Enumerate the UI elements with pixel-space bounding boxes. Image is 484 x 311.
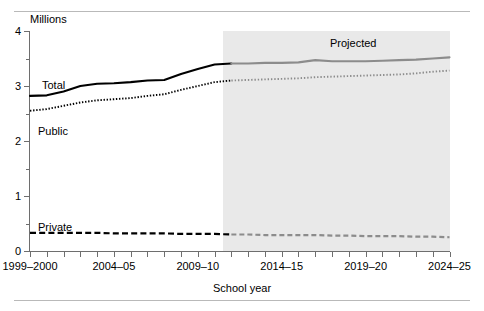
chart-plot-lines xyxy=(0,0,484,311)
x-axis-title: School year xyxy=(0,283,484,294)
series-label-total: Total xyxy=(42,80,65,91)
series-line-public-projected xyxy=(231,71,449,81)
series-line-total-projected xyxy=(231,57,449,63)
series-label-public: Public xyxy=(38,126,68,137)
chart-figure: Millions 01234 1999–20002004–052009–1020… xyxy=(0,0,484,311)
series-line-private-actual xyxy=(30,233,231,235)
series-label-private: Private xyxy=(38,222,72,233)
projection-annotation-label: Projected xyxy=(330,38,376,49)
series-line-private-projected xyxy=(231,235,449,238)
